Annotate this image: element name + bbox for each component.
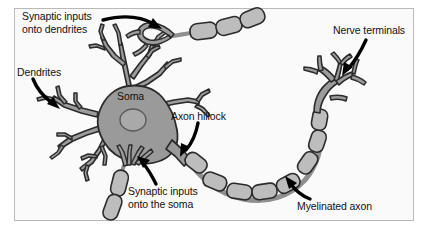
myelin-segment-top (238, 6, 267, 30)
neuron-diagram-figure: Synaptic inputs onto dendrites Dendrites… (0, 0, 429, 231)
dendrite-twig-lower-b (84, 165, 89, 181)
myelin-segment-top (189, 21, 218, 40)
dendrite-branch-lower-left-main (58, 126, 100, 149)
synaptic-ending-top-twig2 (133, 44, 148, 56)
myelin-segment (251, 182, 278, 200)
presynaptic-axon-soma-group (101, 145, 153, 222)
nerve-terminals-group (304, 52, 366, 113)
label-soma: Soma (117, 90, 144, 103)
soma-nucleus (120, 109, 146, 131)
myelin-segment (201, 170, 229, 193)
label-synaptic-inputs-onto-dendrites: Synaptic inputs onto dendrites (22, 10, 92, 35)
myelin-segment-soma (101, 192, 124, 222)
myelin-segment-soma (109, 169, 130, 198)
terminal-twig-right-out (351, 75, 366, 85)
dendrite-twig-lower-left-b (50, 145, 64, 159)
dendrite-twig-upper-left-a (89, 44, 105, 50)
terminal-branch-lower-right (330, 95, 347, 101)
dendrite-twig-lower-c (100, 146, 107, 165)
dendrite-twig-upper-left-b (99, 24, 105, 40)
myelin-segment (307, 128, 328, 154)
terminal-twig-left-up (318, 56, 323, 71)
dendrite-twig-lower-left-a (57, 133, 72, 140)
myelin-segment-top (214, 15, 243, 37)
arrow-to-synaptic-soma (143, 163, 156, 184)
label-myelinated-axon: Myelinated axon (297, 200, 372, 213)
label-nerve-terminals: Nerve terminals (333, 24, 405, 37)
terminal-twig-left-out (304, 67, 318, 74)
dendrite-twig-far-right (164, 58, 181, 69)
dendrite-twig-upper-top (113, 24, 122, 45)
label-dendrites: Dendrites (17, 66, 61, 79)
label-axon-hillock: Axon hillock (171, 110, 226, 123)
arrow-to-axon-hillock (186, 123, 198, 150)
myelin-segment (226, 182, 253, 200)
label-synaptic-inputs-onto-the-soma: Synaptic inputs onto the soma (128, 185, 198, 210)
presynaptic-axon-top-group (126, 6, 267, 56)
dendrite-twig-right-a (196, 89, 210, 102)
